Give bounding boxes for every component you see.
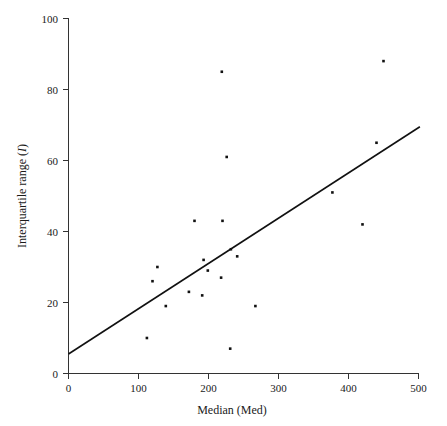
data-point: [188, 291, 191, 294]
data-point: [193, 220, 196, 223]
x-tick-label-400: 400: [340, 382, 357, 394]
y-tick-label-20: 20: [47, 297, 59, 309]
x-axis-ticks: [69, 374, 419, 380]
y-tick-label-40: 40: [47, 226, 59, 238]
x-tick-label-100: 100: [130, 382, 147, 394]
data-point: [225, 156, 228, 159]
data-point: [375, 141, 378, 144]
data-point: [146, 337, 149, 340]
scatter-plot-figure: 100 80 60 40 20 0 0 100 200 300 400 500: [0, 0, 447, 426]
data-point: [207, 269, 210, 272]
y-tick-label-80: 80: [47, 84, 59, 96]
data-point: [331, 191, 334, 194]
data-point: [382, 60, 385, 63]
y-axis-ticks: [63, 19, 69, 374]
data-point: [254, 305, 257, 308]
data-point: [165, 305, 168, 308]
data-points-layer: [146, 60, 385, 350]
y-tick-label-0: 0: [53, 368, 59, 380]
y-axis-tick-labels: 100 80 60 40 20 0: [42, 13, 59, 380]
regression-line: [69, 127, 420, 354]
y-axis-title: Interquartile range (I): [15, 144, 29, 248]
y-tick-label-60: 60: [47, 155, 59, 167]
x-tick-label-0: 0: [66, 382, 72, 394]
data-point: [201, 294, 204, 297]
plot-canvas: 100 80 60 40 20 0 0 100 200 300 400 500: [0, 0, 447, 426]
data-point: [230, 248, 233, 251]
data-point: [202, 259, 205, 262]
x-tick-label-500: 500: [410, 382, 427, 394]
data-point: [221, 70, 224, 73]
data-point: [236, 255, 239, 258]
data-point: [151, 280, 154, 283]
x-axis-title: Median (Med): [197, 403, 267, 417]
x-tick-label-200: 200: [200, 382, 217, 394]
data-point: [361, 223, 364, 226]
data-point: [229, 347, 232, 350]
y-axis-title-text: Interquartile range: [15, 159, 29, 248]
data-point: [220, 276, 223, 279]
x-tick-label-300: 300: [270, 382, 287, 394]
data-point: [156, 266, 159, 269]
data-point: [221, 220, 224, 223]
x-axis-tick-labels: 0 100 200 300 400 500: [66, 382, 428, 394]
y-tick-label-100: 100: [42, 13, 59, 25]
